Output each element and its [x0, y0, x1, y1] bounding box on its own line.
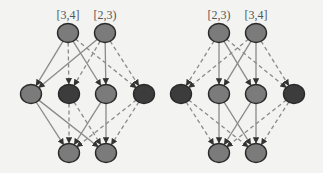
dashed-edge: [188, 100, 248, 147]
light-node-m3: [246, 85, 267, 104]
light-node-t2: [246, 24, 267, 43]
dark-node-m1: [171, 85, 192, 104]
light-node-t1: [209, 24, 230, 43]
light-node-b1: [209, 144, 230, 163]
light-node-b2: [246, 144, 267, 163]
dark-node-m4: [284, 85, 305, 104]
diagram-canvas: [3,4][2,3)[2,3)[3,4]: [0, 0, 323, 173]
edges-right: [186, 39, 289, 147]
dashed-edge: [227, 100, 287, 147]
interval-label: [2,3): [94, 8, 117, 23]
nodes-right: [171, 24, 305, 163]
dashed-edge: [261, 41, 289, 85]
interval-label: [3,4]: [245, 8, 268, 23]
interval-label: [3,4]: [57, 8, 80, 23]
interval-label: [2,3): [208, 8, 231, 23]
light-node-m2: [209, 85, 230, 104]
right-network-diagram: [0, 0, 323, 173]
dashed-edge: [186, 41, 214, 85]
